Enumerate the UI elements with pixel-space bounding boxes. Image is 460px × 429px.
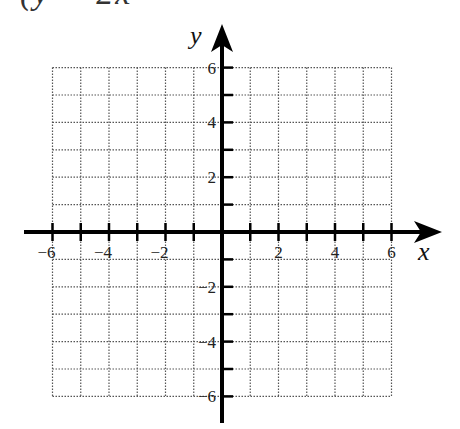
y-tick-label: 4 bbox=[208, 113, 217, 132]
x-axis-label: x bbox=[417, 237, 430, 266]
y-tick-label: −6 bbox=[198, 387, 216, 406]
y-axis-label: y bbox=[187, 21, 202, 50]
x-tick-label: −4 bbox=[94, 243, 113, 262]
y-tick-label: 6 bbox=[208, 59, 217, 78]
axes bbox=[24, 24, 442, 423]
y-tick-label: −2 bbox=[198, 278, 216, 297]
y-tick-label: −4 bbox=[198, 333, 217, 352]
x-tick-label: −6 bbox=[37, 243, 55, 262]
x-tick-label: 6 bbox=[387, 243, 396, 262]
y-tick-label: 2 bbox=[208, 168, 217, 187]
x-tick-label: 2 bbox=[274, 243, 283, 262]
coordinate-plane: −6−4−2246642−2−4−6 x y bbox=[0, 0, 460, 429]
x-tick-label: −2 bbox=[150, 243, 168, 262]
x-tick-label: 4 bbox=[331, 243, 340, 262]
